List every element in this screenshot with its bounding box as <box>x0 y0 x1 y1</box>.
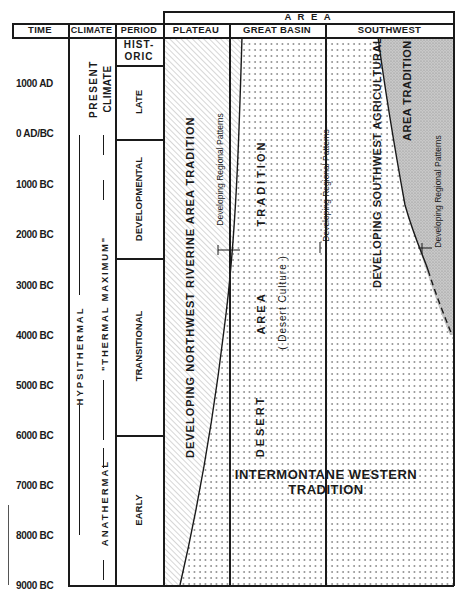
period-divider-historic-late <box>115 65 163 67</box>
time-label: 0 AD/BC <box>16 128 54 139</box>
hypsithermal-range-line-top <box>79 135 80 295</box>
period-transitional: TRANSITIONAL <box>133 291 145 401</box>
time-label: 5000 BC <box>16 380 53 391</box>
period-early: EARLY <box>133 480 145 540</box>
period-plateau-divider <box>163 23 165 586</box>
thermal-max-line-bottom <box>103 380 104 440</box>
period-historic: HIST- ORIC <box>115 39 163 63</box>
time-climate-divider <box>68 23 70 586</box>
period-historic-line2: ORIC <box>115 51 163 63</box>
plateau-regional-label: Developing Regional Patterns <box>215 100 226 240</box>
plateau-tradition-label: DEVELOPING NORTHWEST RIVERINE AREA TRADI… <box>183 158 197 458</box>
time-column-header: TIME <box>12 23 68 37</box>
thermal-max-line-top <box>103 135 104 155</box>
left-margin-mark <box>8 505 9 585</box>
climate-hypsithermal: HYPSITHERMAL <box>74 306 86 406</box>
intermontane-label: INTERMONTANE WESTERN TRADITION <box>200 467 466 497</box>
period-divider-transitional-early <box>115 435 163 437</box>
time-label: 1000 BC <box>16 179 53 190</box>
table-right-border <box>453 11 455 586</box>
period-divider-late-developmental <box>115 139 163 141</box>
greatbasin-tradition-line2: AREA <box>254 273 268 353</box>
time-label: 8000 BC <box>16 530 53 541</box>
southwest-regional-label: Developing Regional Patterns <box>433 122 444 262</box>
period-divider-developmental-transitional <box>115 258 163 260</box>
anathermal-line-top <box>103 448 104 468</box>
time-label: 7000 BC <box>16 480 53 491</box>
climate-thermal-maximum: "THERMAL MAXIMUM" <box>99 251 111 371</box>
time-label: 3000 BC <box>16 280 53 291</box>
southwest-tradition-line2: AREA TRADITION <box>400 41 414 141</box>
hypsithermal-range-line-bottom <box>79 405 80 535</box>
climate-period-divider <box>115 23 117 586</box>
time-label: 6000 BC <box>16 430 53 441</box>
plateau-column-header: PLATEAU <box>163 23 229 37</box>
climate-anathermal: ANATHERMAL <box>99 453 111 553</box>
time-label: 4000 BC <box>16 330 53 341</box>
climate-present-line1: PRESENT <box>88 49 100 129</box>
period-late: LATE <box>133 72 145 132</box>
time-label: 1000 AD <box>16 78 53 89</box>
header-bottom-border <box>12 37 454 39</box>
southwest-column-header: SOUTHWEST <box>325 23 454 37</box>
greatbasin-column-header: GREAT BASIN <box>229 23 325 37</box>
intermontane-line2: TRADITION <box>186 482 466 497</box>
climate-column-header: CLIMATE <box>68 23 115 37</box>
anathermal-line-bottom <box>103 560 104 580</box>
greatbasin-southwest-divider <box>325 23 327 586</box>
greatbasin-tradition-line1: DESERT <box>253 386 267 466</box>
period-developmental: DEVELOPMENTAL <box>133 149 145 249</box>
greatbasin-regional-label: Developing Regional Patterns <box>321 116 332 256</box>
table-bottom-border <box>68 585 454 587</box>
period-historic-line1: HIST- <box>115 39 163 51</box>
greatbasin-subtitle: ( Desert Culture ) <box>276 248 289 358</box>
area-header: A R E A <box>163 10 454 24</box>
time-label: 9000 BC <box>16 580 53 591</box>
greatbasin-tradition-line3: TRADITION <box>254 133 268 233</box>
diagram-graphics <box>0 0 466 598</box>
thermal-max-line-top2 <box>103 180 104 200</box>
plateau-greatbasin-divider <box>229 23 231 586</box>
southwest-tradition-line1: DEVELOPING SOUTHWEST AGRICULTURAL <box>370 58 384 288</box>
period-column-header: PERIOD <box>115 23 163 37</box>
time-label: 2000 BC <box>16 229 53 240</box>
intermontane-line1: INTERMONTANE WESTERN <box>186 467 466 482</box>
climate-present-line2: CLIMATE <box>102 49 114 129</box>
